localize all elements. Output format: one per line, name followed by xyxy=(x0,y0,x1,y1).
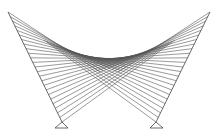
left-fan-base-triangle xyxy=(55,122,68,128)
string-art-diagram xyxy=(0,0,219,136)
left-fan-string xyxy=(13,21,107,69)
left-fan-string xyxy=(17,30,113,66)
right-fan-string xyxy=(112,21,206,69)
right-fan-string xyxy=(63,48,170,95)
right-fan-string xyxy=(109,26,204,68)
diagram-canvas xyxy=(0,0,219,136)
left-fan-string xyxy=(15,26,110,68)
right-fan-string xyxy=(44,40,156,122)
right-fan-base-triangle xyxy=(150,122,163,128)
right-fan-string xyxy=(106,30,201,66)
right-fan-string xyxy=(59,47,167,99)
left-fan-string xyxy=(62,40,175,122)
